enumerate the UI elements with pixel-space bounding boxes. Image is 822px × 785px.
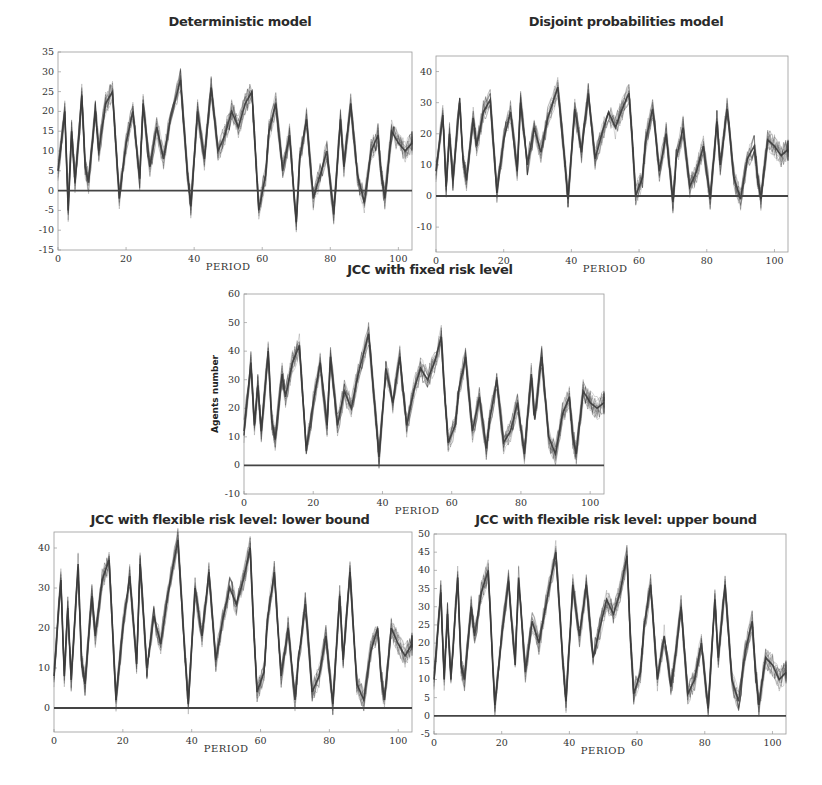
y-tick-label: 5 [424, 692, 430, 703]
series-line [58, 80, 412, 223]
x-axis-label: PERIOD [581, 745, 626, 756]
y-tick-label: 10 [418, 673, 430, 684]
y-tick-label: 0 [234, 459, 240, 470]
x-tick-label: 100 [765, 255, 783, 266]
y-tick-label: 25 [42, 86, 54, 97]
x-tick-label: 80 [515, 497, 527, 508]
plot-frame [434, 534, 786, 734]
y-tick-label: 50 [418, 528, 430, 539]
y-tick-label: 20 [38, 622, 50, 633]
y-tick-label: 60 [228, 288, 240, 299]
x-tick-label: 0 [241, 497, 247, 508]
simulation-traces [434, 540, 786, 716]
x-tick-label: 20 [496, 737, 508, 748]
x-tick-label: 100 [389, 735, 407, 746]
x-tick-label: 80 [701, 255, 713, 266]
chart-plot: -100102030405060020406080100PERIODAgents… [200, 262, 620, 512]
x-tick-label: 40 [188, 253, 200, 264]
x-tick-label: 100 [581, 497, 599, 508]
y-tick-label: -15 [39, 244, 54, 255]
panel-disjoint: Disjoint probabilities model -1001020304… [410, 14, 822, 266]
y-tick-label: 20 [420, 128, 432, 139]
y-tick-label: -5 [421, 728, 430, 739]
x-tick-label: 20 [307, 497, 319, 508]
x-axis-label: PERIOD [204, 743, 249, 754]
x-tick-label: 80 [323, 735, 335, 746]
x-tick-label: 60 [254, 735, 266, 746]
y-tick-label: 20 [228, 402, 240, 413]
series-line [434, 552, 786, 708]
y-tick-label: 10 [42, 145, 54, 156]
x-tick-label: 0 [431, 737, 437, 748]
y-tick-label: 5 [48, 165, 54, 176]
x-tick-label: 0 [51, 735, 57, 746]
y-tick-label: 0 [424, 710, 430, 721]
x-tick-label: 40 [186, 735, 198, 746]
panel-jcc-flexible-lower: JCC with flexible risk level: lower boun… [0, 512, 420, 772]
y-tick-label: 20 [42, 105, 54, 116]
y-tick-label: 0 [426, 190, 432, 201]
x-tick-label: 60 [633, 255, 645, 266]
series-line [54, 540, 412, 704]
x-tick-label: 100 [763, 737, 781, 748]
y-tick-label: -10 [417, 221, 432, 232]
y-tick-label: 40 [38, 542, 50, 553]
plot-frame [436, 56, 788, 252]
y-tick-label: 30 [418, 601, 430, 612]
y-tick-label: 30 [42, 66, 54, 77]
y-tick-label: 15 [42, 125, 54, 136]
y-tick-label: 10 [228, 431, 240, 442]
chart-plot: 010203040020406080100PERIOD [0, 512, 420, 772]
y-tick-label: 40 [418, 564, 430, 575]
y-tick-label: 30 [38, 582, 50, 593]
panel-jcc-fixed: JCC with fixed risk level -1001020304050… [200, 262, 620, 512]
x-tick-label: 40 [376, 497, 388, 508]
y-tick-label: 25 [418, 619, 430, 630]
plot-frame [244, 294, 604, 494]
y-tick-label: 10 [420, 159, 432, 170]
y-tick-label: 40 [228, 345, 240, 356]
y-tick-label: -10 [225, 488, 240, 499]
x-tick-label: 80 [699, 737, 711, 748]
y-tick-label: 35 [42, 46, 54, 57]
chart-plot: -505101520253035404550020406080100PERIOD [410, 512, 822, 772]
y-tick-label: 15 [418, 655, 430, 666]
y-tick-label: 20 [418, 637, 430, 648]
simulation-traces [244, 322, 604, 469]
x-tick-label: 40 [563, 737, 575, 748]
panel-jcc-flexible-upper: JCC with flexible risk level: upper boun… [410, 512, 822, 772]
x-tick-label: 20 [120, 253, 132, 264]
chart-plot: -10010203040020406080100PERIOD [410, 14, 822, 266]
x-tick-label: 20 [117, 735, 129, 746]
panel-deterministic: Deterministic model -15-10-5051015202530… [20, 14, 420, 266]
simulation-traces [436, 77, 788, 213]
y-tick-label: 50 [228, 317, 240, 328]
y-tick-label: 40 [420, 66, 432, 77]
y-tick-label: 45 [418, 546, 430, 557]
x-tick-label: 0 [55, 253, 61, 264]
y-tick-label: -5 [45, 204, 54, 215]
plot-frame [58, 52, 412, 250]
y-axis-label: Agents number [210, 354, 220, 432]
x-tick-label: 60 [446, 497, 458, 508]
chart-plot: -15-10-505101520253035020406080100PERIOD [20, 14, 420, 266]
y-tick-label: 0 [44, 702, 50, 713]
y-tick-label: 10 [38, 662, 50, 673]
y-tick-label: 30 [420, 97, 432, 108]
y-tick-label: -10 [39, 224, 54, 235]
y-tick-label: 30 [228, 374, 240, 385]
y-tick-label: 0 [48, 185, 54, 196]
x-tick-label: 60 [631, 737, 643, 748]
y-tick-label: 35 [418, 583, 430, 594]
